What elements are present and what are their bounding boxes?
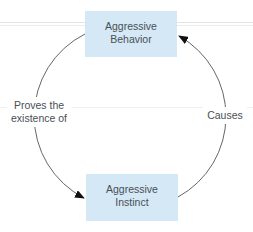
node-label-line2: Instinct <box>106 196 158 209</box>
edge-label-causes: Causes <box>203 107 247 124</box>
node-label-line1: Aggressive <box>106 183 158 196</box>
edge-label-line1: Causes <box>203 109 247 122</box>
edge-label-line2: existence of <box>7 112 71 125</box>
node-label-line1: Aggressive <box>105 20 157 33</box>
node-aggressive-instinct: Aggressive Instinct <box>86 174 178 221</box>
edge-label-proves-existence: Proves the existence of <box>7 97 71 127</box>
edge-label-line1: Proves the <box>7 99 71 112</box>
node-aggressive-behavior: Aggressive Behavior <box>85 11 177 57</box>
node-label-line2: Behavior <box>105 33 157 46</box>
